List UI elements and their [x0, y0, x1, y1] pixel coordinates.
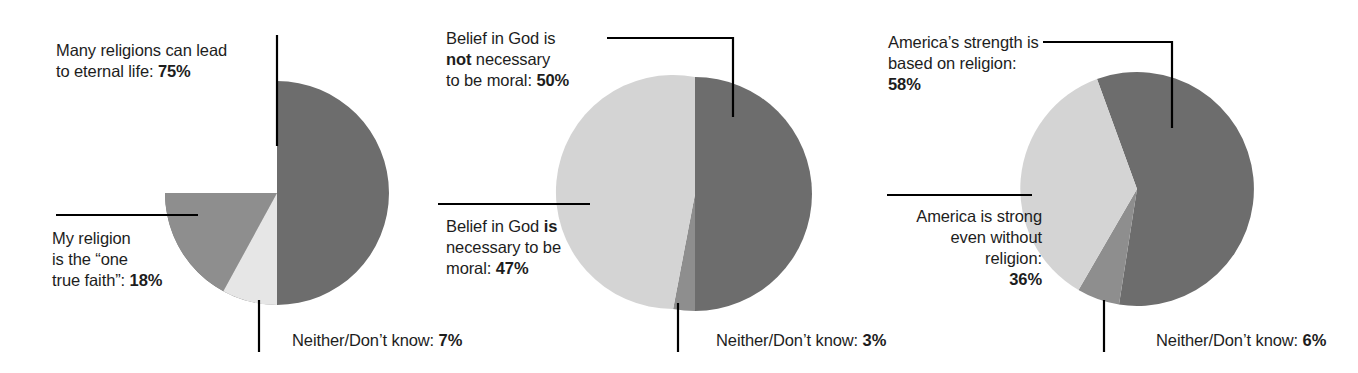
- label-line: religion:: [985, 249, 1042, 267]
- label-strength-based-on-religion: America’s strength is based on religion:…: [888, 32, 1039, 95]
- label-value: 6%: [1303, 331, 1327, 349]
- label-line: Neither/Don’t know:: [1156, 331, 1303, 349]
- label-line: America’s strength is: [888, 33, 1039, 51]
- chart-panel-america-strength: America’s strength is based on religion:…: [904, 0, 1358, 373]
- label-strong-without-religion: America is strong even without religion:…: [864, 206, 1042, 290]
- label-line: America is strong: [916, 207, 1042, 225]
- label-line: even without: [951, 228, 1042, 246]
- label-value: 36%: [1009, 270, 1042, 288]
- label-line: based on religion:: [888, 54, 1016, 72]
- label-neither-dont-know: Neither/Don’t know: 6%: [1156, 330, 1326, 351]
- pie-chart-figure: Many religions can lead to eternal life:…: [0, 0, 1358, 373]
- label-value: 58%: [888, 75, 921, 93]
- pie-chart-3: [0, 0, 1358, 373]
